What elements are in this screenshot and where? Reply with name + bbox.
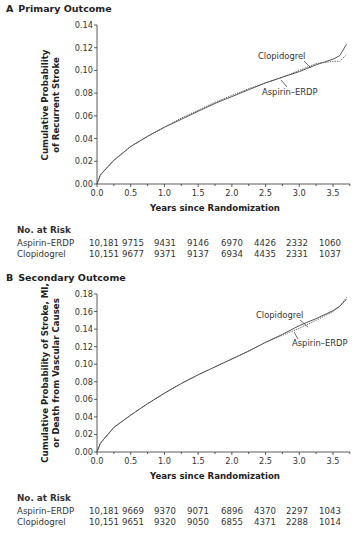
y-tick-label: 0.12 — [75, 342, 93, 352]
risk-table-row: Aspirin–ERDP10,1819669937090716896437022… — [0, 506, 362, 517]
risk-table-row: Clopidogrel10,15196519320905068554371228… — [0, 517, 362, 528]
x-tick-label: 0.5 — [124, 456, 137, 466]
x-tick-label: 1.5 — [192, 456, 205, 466]
x-tick-label: 3.0 — [293, 456, 306, 466]
annotation-leader-line — [300, 320, 308, 327]
x-axis-label: Years since Randomization — [149, 471, 280, 481]
risk-value: 9071 — [187, 506, 209, 516]
risk-table-title: No. at Risk — [17, 493, 71, 503]
risk-value: 1043 — [319, 506, 341, 516]
y-tick-label: 0.06 — [75, 394, 93, 404]
x-tick-label: 0.0 — [90, 456, 103, 466]
x-tick-label: 2.5 — [259, 456, 272, 466]
risk-value: 9651 — [122, 517, 144, 527]
clopidogrel-curve — [97, 299, 347, 452]
risk-value: 9050 — [187, 517, 209, 527]
aspirin-erdp-curve — [97, 298, 347, 453]
risk-value: 6855 — [221, 517, 243, 527]
y-tick-label: 0.04 — [75, 412, 93, 422]
y-tick-label: 0.02 — [75, 429, 93, 439]
y-tick-label: 0.14 — [75, 324, 93, 334]
risk-row-label: Aspirin–ERDP — [17, 506, 74, 516]
y-tick-label: 0.10 — [75, 359, 93, 369]
x-tick-label: 1.0 — [158, 456, 171, 466]
risk-value: 10,151 — [89, 517, 119, 527]
y-tick-label: 0.16 — [75, 307, 93, 317]
svg-text:or Death from Vascular Causes: or Death from Vascular Causes — [51, 298, 61, 448]
risk-row-label: Clopidogrel — [17, 517, 66, 527]
y-tick-label: 0.08 — [75, 377, 93, 387]
risk-value: 9669 — [122, 506, 144, 516]
y-axis-label: Cumulative Probability of Stroke, MI,or … — [40, 283, 61, 462]
risk-value: 6896 — [221, 506, 243, 516]
risk-value: 9370 — [154, 506, 176, 516]
risk-value: 4370 — [254, 506, 276, 516]
x-tick-label: 2.0 — [225, 456, 238, 466]
risk-value: 4371 — [254, 517, 276, 527]
svg-text:Cumulative Probability of Stro: Cumulative Probability of Stroke, MI, — [40, 283, 50, 462]
risk-value: 10,181 — [89, 506, 119, 516]
risk-value: 1014 — [319, 517, 341, 527]
x-tick-label: 3.5 — [326, 456, 339, 466]
y-tick-label: 0.18 — [75, 289, 93, 299]
risk-value: 2297 — [286, 506, 308, 516]
risk-value: 2288 — [286, 517, 308, 527]
aspirin-erdp-label: Aspirin–ERDP — [292, 338, 348, 348]
clopidogrel-label: Clopidogrel — [256, 310, 303, 320]
secondary-outcome-chart: 0.000.020.040.060.080.100.120.140.160.18… — [0, 0, 362, 533]
risk-value: 9320 — [154, 517, 176, 527]
